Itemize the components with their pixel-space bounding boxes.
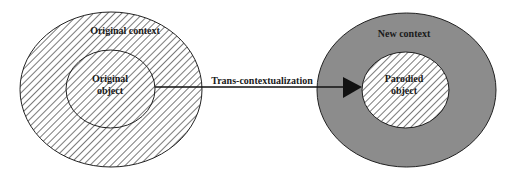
arrow-label: Trans-contextualization (211, 75, 313, 86)
original-context-label: Original context (90, 25, 160, 36)
diagram-canvas: Original context Original object New con… (0, 0, 514, 177)
parodied-object-label-line2: object (391, 85, 418, 96)
new-context-label: New context (378, 28, 431, 39)
original-context-group: Original context Original object (20, 12, 202, 167)
original-object-label-line1: Original (92, 73, 128, 84)
parodied-object-label-line1: Parodied (385, 73, 424, 84)
original-object-label-line2: object (97, 85, 124, 96)
